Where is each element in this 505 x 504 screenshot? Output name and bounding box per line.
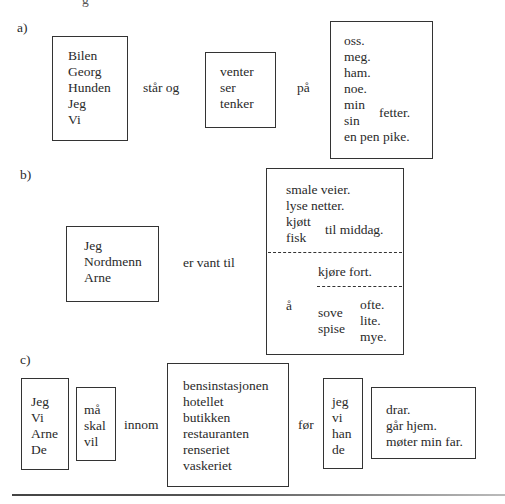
b-verb-phrase: kjøre fort. [318, 264, 372, 280]
c-modals-list: må skal vil [84, 402, 106, 450]
a-subject: Hunden [68, 80, 111, 96]
c-modal: skal [84, 418, 106, 434]
a-objects-list: oss. meg. ham. noe. min sin en pen pike. [344, 33, 410, 145]
c-place: vaskeriet [183, 458, 269, 474]
a-object: oss. [344, 33, 410, 49]
a-object: ham. [344, 65, 410, 81]
a-verb: ser [220, 80, 254, 96]
a-object: meg. [344, 49, 410, 65]
cut-off-text: g [82, 0, 89, 8]
b-dashed-divider-inner [317, 286, 402, 287]
b-food-suffix: til middag. [325, 222, 384, 238]
a-verb: tenker [220, 96, 254, 112]
c-place: bensinstasjonen [183, 378, 269, 394]
b-adverb: ofte. [360, 297, 387, 313]
a-connector-pa: på [297, 80, 310, 96]
c-pronoun: han [332, 426, 352, 442]
a-possessive-noun: fetter. [379, 105, 410, 121]
b-infinitive-marker: å [286, 298, 292, 314]
c-ending: drar. [386, 402, 463, 418]
c-ending: møter min far. [386, 434, 463, 450]
c-ending: går hjem. [386, 418, 463, 434]
section-a-label: a) [17, 20, 28, 36]
c-modal: vil [84, 434, 106, 450]
c-subject: De [31, 442, 58, 458]
b-subject: Arne [84, 270, 142, 286]
b-subject: Nordmenn [84, 254, 142, 270]
a-object: noe. [344, 81, 410, 97]
section-c-label: c) [20, 352, 31, 368]
b-dashed-divider [268, 252, 402, 253]
b-adverb: mye. [360, 329, 387, 345]
b-subjects-list: Jeg Nordmenn Arne [84, 238, 142, 286]
c-places-list: bensinstasjonen hotellet butikken restau… [183, 378, 269, 474]
a-object-last: en pen pike. [344, 129, 410, 145]
a-subject: Bilen [68, 48, 111, 64]
b-adverbs-list: ofte. lite. mye. [360, 297, 387, 345]
c-pronoun: de [332, 442, 352, 458]
c-subject: Vi [31, 410, 58, 426]
a-connector-star-og: står og [143, 80, 179, 96]
bottom-rule [12, 494, 505, 496]
a-verbs-list: venter ser tenker [220, 64, 254, 112]
c-subject: Jeg [31, 394, 58, 410]
c-endings-list: drar. går hjem. møter min far. [386, 402, 463, 450]
b-adverb: lite. [360, 313, 387, 329]
a-subject: Vi [68, 112, 111, 128]
c-subject: Arne [31, 426, 58, 442]
a-subject: Jeg [68, 96, 111, 112]
c-place: butikken [183, 410, 269, 426]
a-subject: Georg [68, 64, 111, 80]
b-subject: Jeg [84, 238, 142, 254]
a-subjects-list: Bilen Georg Hunden Jeg Vi [68, 48, 111, 128]
c-subjects-list: Jeg Vi Arne De [31, 394, 58, 458]
c-place: restauranten [183, 426, 269, 442]
c-modal: må [84, 402, 106, 418]
c-connector-for: før [298, 417, 314, 433]
c-place: hotellet [183, 394, 269, 410]
c-pronoun: vi [332, 410, 352, 426]
c-connector-innom: innom [124, 417, 159, 433]
section-b-label: b) [20, 167, 31, 183]
c-pronouns-list: jeg vi han de [332, 394, 352, 458]
a-verb: venter [220, 64, 254, 80]
b-verbs-list: sove spise [318, 305, 345, 337]
b-noun: smale veier. [286, 182, 350, 198]
c-pronoun: jeg [332, 394, 352, 410]
b-verb: spise [318, 321, 345, 337]
b-noun: lyse netter. [286, 198, 350, 214]
c-place: renseriet [183, 442, 269, 458]
b-verb: sove [318, 305, 345, 321]
b-connector-er-vant-til: er vant til [183, 255, 235, 271]
